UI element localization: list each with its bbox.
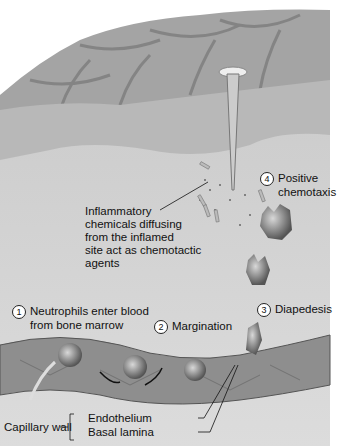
neutrophil-2	[123, 355, 147, 379]
label-inflammatory-chemicals: Inflammatory chemicals diffusing from th…	[85, 205, 201, 270]
label-capillary-wall: Capillary wall	[4, 421, 72, 434]
diagram-canvas: Inflammatory chemicals diffusing from th…	[0, 0, 341, 446]
step-number-3: 3	[257, 303, 271, 317]
step-number-4: 4	[260, 172, 274, 186]
label-step-3: 3Diapedesis	[257, 303, 332, 317]
step-number-1: 1	[12, 305, 26, 319]
label-step-2: 2Margination	[154, 320, 232, 334]
neutrophil-1	[58, 343, 82, 367]
label-step-1: 1Neutrophils enter blood from bone marro…	[12, 305, 149, 332]
label-basal-lamina: Basal lamina	[88, 426, 154, 439]
label-endothelium: Endothelium	[88, 412, 152, 425]
step-number-2: 2	[154, 320, 168, 334]
label-step-4: 4Positive chemotaxis	[260, 172, 336, 199]
neutrophil-3	[184, 359, 206, 381]
